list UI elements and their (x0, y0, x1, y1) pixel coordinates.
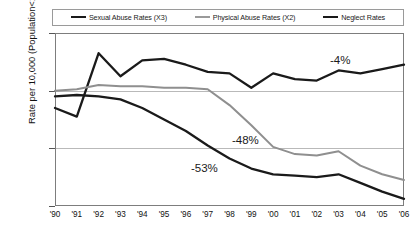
legend-item: Sexual Abuse Rates (X3) (71, 14, 167, 21)
chart-figure: Sexual Abuse Rates (X3)Physical Abuse Ra… (0, 0, 420, 237)
data-annotation-label: -48% (232, 134, 259, 146)
legend-item: Neglect Rates (323, 14, 385, 21)
legend-item-label: Sexual Abuse Rates (X3) (89, 14, 167, 21)
data-annotation-label: -4% (330, 54, 350, 66)
y-tick-mark (49, 206, 55, 207)
chart-legend: Sexual Abuse Rates (X3)Physical Abuse Ra… (52, 9, 404, 26)
gridline (56, 148, 403, 149)
legend-item-label: Neglect Rates (341, 14, 385, 21)
legend-line-swatch (323, 16, 338, 18)
legend-line-swatch (71, 16, 86, 18)
legend-item: Physical Abuse Rates (X2) (195, 14, 296, 21)
gridline (56, 91, 403, 92)
data-annotation-label: -53% (191, 162, 218, 174)
legend-line-swatch (195, 16, 210, 18)
x-tick-label: '06 (391, 210, 417, 219)
plot-area (55, 33, 404, 206)
legend-item-label: Physical Abuse Rates (X2) (213, 14, 296, 21)
y-axis-title: Rate per 10,000 (Population<18yrs) (26, 0, 37, 137)
